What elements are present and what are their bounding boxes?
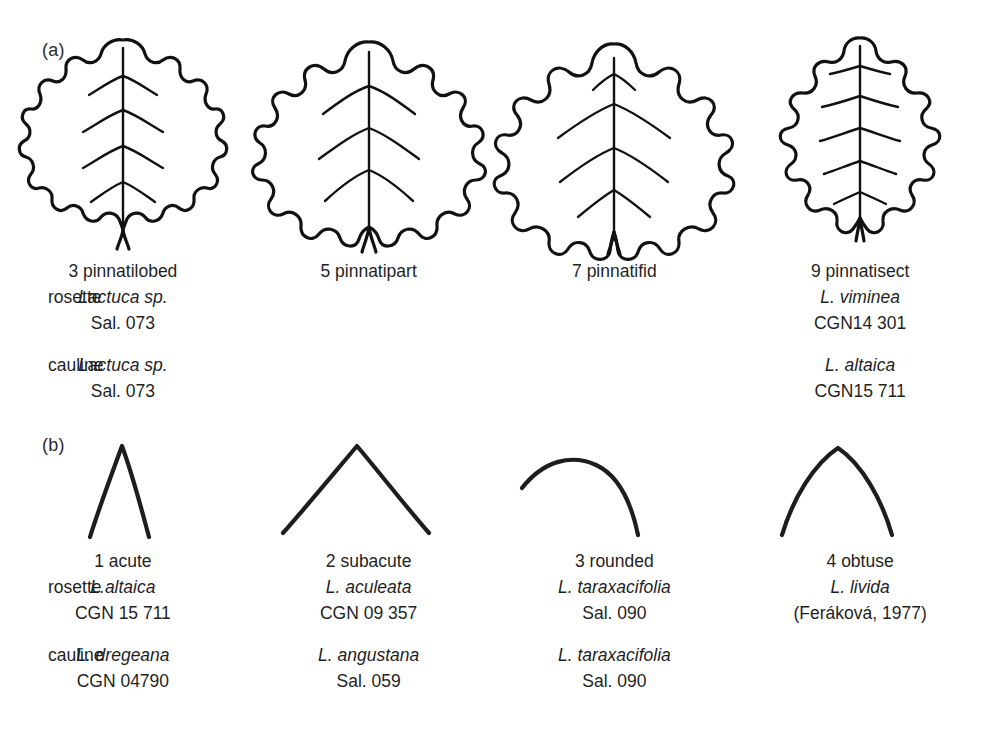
panel-b-col-0-rosette: rosette 1 acute L.altaica CGN 15 711	[0, 548, 246, 626]
accession-label: CGN14 301	[737, 310, 983, 336]
leaf-pinnatifid-cell	[492, 18, 738, 253]
panel-a-shape-row	[0, 18, 983, 253]
leaf-pinnatisect-cell	[737, 18, 983, 253]
apex-rounded-icon	[514, 436, 714, 541]
apex-obtuse-icon	[760, 436, 960, 541]
panel-a-col-1-cauline	[246, 352, 492, 404]
accession-label: Sal. 090	[492, 668, 738, 694]
accession-label: CGN 04790	[0, 668, 246, 694]
taxon-label: L. taraxacifolia	[492, 574, 738, 600]
state-label: 7 pinnatifid	[492, 258, 738, 284]
state-label: 2 subacute	[246, 548, 492, 574]
accession-label: CGN15 711	[737, 378, 983, 404]
leaf-pinnatilobed-icon	[23, 18, 223, 253]
panel-a-col-0-cauline: cauline Lactuca sp. Sal. 073	[0, 352, 246, 404]
panel-a-cauline-text-row: cauline Lactuca sp. Sal. 073 L. altaica …	[0, 352, 983, 404]
panel-b-cauline-tag: cauline	[48, 642, 103, 668]
taxon-label: L. viminea	[737, 284, 983, 310]
panel-b-col-1-rosette: 2 subacute L. aculeata CGN 09 357	[246, 548, 492, 626]
accession-label: Sal. 059	[246, 668, 492, 694]
accession-label: Sal. 090	[492, 600, 738, 626]
panel-b-col-3-cauline	[737, 642, 983, 694]
panel-a-rosette-text-row: rosette 3 pinnatilobed Lactuca sp. Sal. …	[0, 258, 983, 336]
taxon-label: L. aculeata	[246, 574, 492, 600]
state-label: 1 acute	[0, 548, 246, 574]
panel-b-cauline-text-row: cauline L. dregeana CGN 04790 L. angusta…	[0, 642, 983, 694]
leaf-pinnatilobed-cell	[0, 18, 246, 253]
panel-b-shape-row	[0, 436, 983, 541]
state-label: 9 pinnatisect	[737, 258, 983, 284]
taxon-label: L. dregeana	[0, 642, 246, 668]
apex-acute-icon	[43, 436, 203, 541]
accession-label: Sal. 073	[0, 378, 246, 404]
panel-a-col-3-rosette: 9 pinnatisect L. viminea CGN14 301	[737, 258, 983, 336]
taxon-label: L. livida	[737, 574, 983, 600]
accession-label: Sal. 073	[0, 310, 246, 336]
state-label: 5 pinnatipart	[246, 258, 492, 284]
apex-acute-cell	[0, 436, 246, 541]
panel-b-col-3-rosette: 4 obtuse L. livida (Feráková, 1977)	[737, 548, 983, 626]
panel-b-rosette-tag: rosette	[48, 574, 102, 600]
panel-a-cauline-tag: cauline	[48, 352, 103, 378]
panel-a-col-0-rosette: rosette 3 pinnatilobed Lactuca sp. Sal. …	[0, 258, 246, 336]
apex-subacute-icon	[269, 436, 469, 541]
panel-a-col-3-cauline: L. altaica CGN15 711	[737, 352, 983, 404]
state-label: 4 obtuse	[737, 548, 983, 574]
panel-b-col-2-rosette: 3 rounded L. taraxacifolia Sal. 090	[492, 548, 738, 626]
accession-label: CGN 09 357	[246, 600, 492, 626]
panel-b-col-0-cauline: cauline L. dregeana CGN 04790	[0, 642, 246, 694]
state-label: 3 pinnatilobed	[0, 258, 246, 284]
state-label: 3 rounded	[492, 548, 738, 574]
apex-rounded-cell	[492, 436, 738, 541]
panel-a-rosette-tag: rosette	[48, 284, 102, 310]
apex-obtuse-cell	[737, 436, 983, 541]
panel-b-col-2-cauline: L. taraxacifolia Sal. 090	[492, 642, 738, 694]
leaf-pinnatifid-icon	[514, 18, 714, 253]
taxon-label: Lactuca sp.	[0, 352, 246, 378]
taxon-label: L. taraxacifolia	[492, 642, 738, 668]
panel-a-col-2-cauline	[492, 352, 738, 404]
taxon-label: Lactuca sp.	[0, 284, 246, 310]
leaf-pinnatipart-icon	[269, 18, 469, 253]
leaf-pinnatisect-icon	[760, 18, 960, 253]
panel-b-rosette-text-row: rosette 1 acute L.altaica CGN 15 711 2 s…	[0, 548, 983, 626]
leaf-morphology-figure: (a)	[0, 0, 983, 734]
panel-b-col-1-cauline: L. angustana Sal. 059	[246, 642, 492, 694]
panel-a-col-2-rosette: 7 pinnatifid	[492, 258, 738, 336]
leaf-pinnatipart-cell	[246, 18, 492, 253]
apex-subacute-cell	[246, 436, 492, 541]
taxon-label: L. angustana	[246, 642, 492, 668]
panel-a-col-1-rosette: 5 pinnatipart	[246, 258, 492, 336]
taxon-label: L. altaica	[737, 352, 983, 378]
taxon-label: L.altaica	[0, 574, 246, 600]
accession-label: (Feráková, 1977)	[737, 600, 983, 626]
accession-label: CGN 15 711	[0, 600, 246, 626]
